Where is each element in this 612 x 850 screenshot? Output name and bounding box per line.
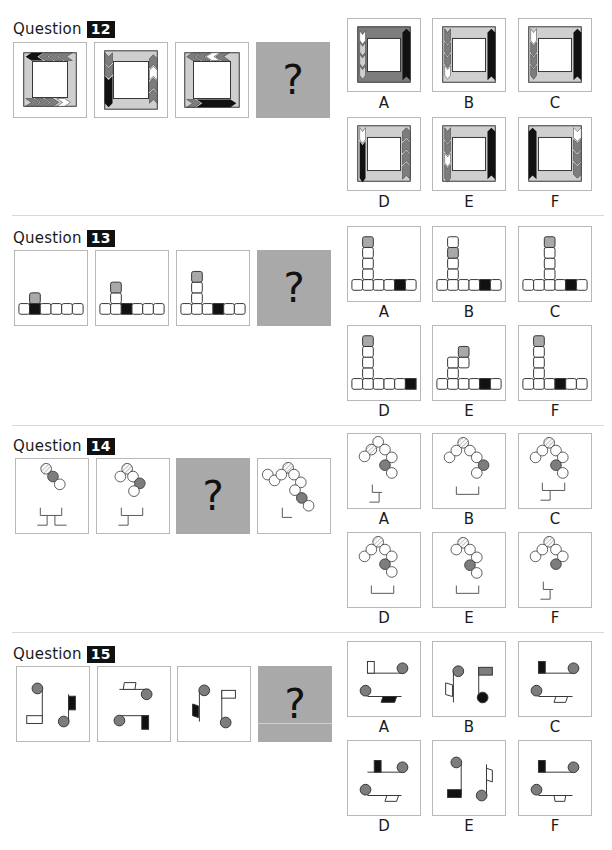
question-number-badge: 13 <box>87 230 115 247</box>
section-divider <box>12 632 604 633</box>
q14-option-e[interactable] <box>432 532 506 608</box>
section-divider <box>12 425 604 426</box>
q15-option-d[interactable] <box>347 740 421 816</box>
question-number-badge: 12 <box>87 21 115 38</box>
q12-option-d-label: D <box>347 193 421 211</box>
q13-option-e-label: E <box>432 402 506 420</box>
q14-option-d-label: D <box>347 609 421 627</box>
q12-sequence-figure-1 <box>13 42 87 118</box>
question-label: Question <box>13 229 82 247</box>
question-14-title: Question 14 <box>13 437 115 455</box>
q12-option-c-label: C <box>518 94 592 112</box>
q14-option-b-label: B <box>432 510 506 528</box>
question-label: Question <box>13 437 82 455</box>
q12-option-e[interactable] <box>432 117 506 191</box>
q14-option-c-label: C <box>518 510 592 528</box>
q14-option-e-label: E <box>432 609 506 627</box>
q14-missing-figure-placeholder: ? <box>176 458 250 534</box>
q14-sequence-figure-1 <box>15 458 89 534</box>
q13-sequence-figure-2 <box>95 250 169 326</box>
q13-option-c-label: C <box>518 303 592 321</box>
scan-artifact-line <box>258 723 332 724</box>
q14-sequence-figure-4 <box>257 458 331 534</box>
q13-option-c[interactable] <box>518 226 592 302</box>
q13-option-f[interactable] <box>518 325 592 401</box>
q13-option-e[interactable] <box>432 325 506 401</box>
q15-sequence-figure-3 <box>177 666 251 742</box>
q13-option-d[interactable] <box>347 325 421 401</box>
q14-option-b[interactable] <box>432 433 506 509</box>
q13-option-f-label: F <box>518 402 592 420</box>
q12-option-b[interactable] <box>432 18 506 92</box>
question-label: Question <box>13 20 82 38</box>
question-number-badge: 15 <box>87 646 115 663</box>
q12-option-d[interactable] <box>347 117 421 191</box>
q15-option-a-label: A <box>347 718 421 736</box>
q13-option-b[interactable] <box>432 226 506 302</box>
question-number-badge: 14 <box>87 438 115 455</box>
q15-sequence-figure-1 <box>16 666 90 742</box>
q15-option-f-label: F <box>518 817 592 835</box>
q15-option-c-label: C <box>518 718 592 736</box>
q12-option-a-label: A <box>347 94 421 112</box>
q14-option-d[interactable] <box>347 532 421 608</box>
q13-option-a-label: A <box>347 303 421 321</box>
q12-missing-figure-placeholder: ? <box>256 42 330 118</box>
q15-option-a[interactable] <box>347 641 421 717</box>
q15-option-e[interactable] <box>432 740 506 816</box>
q15-option-b[interactable] <box>432 641 506 717</box>
q13-missing-figure-placeholder: ? <box>257 250 331 326</box>
section-divider <box>12 215 604 216</box>
question-12-title: Question 12 <box>13 20 115 38</box>
q12-option-f[interactable] <box>518 117 592 191</box>
q15-sequence-figure-2 <box>97 666 171 742</box>
q12-option-c[interactable] <box>518 18 592 92</box>
q13-option-a[interactable] <box>347 226 421 302</box>
question-15-title: Question 15 <box>13 645 115 663</box>
q13-sequence-figure-3 <box>176 250 250 326</box>
q15-option-b-label: B <box>432 718 506 736</box>
question-13-title: Question 13 <box>13 229 115 247</box>
q12-option-a[interactable] <box>347 18 421 92</box>
q12-option-b-label: B <box>432 94 506 112</box>
q14-option-f-label: F <box>518 609 592 627</box>
q15-missing-figure-placeholder: ? <box>258 666 332 742</box>
q14-option-a-label: A <box>347 510 421 528</box>
q15-option-d-label: D <box>347 817 421 835</box>
q14-option-f[interactable] <box>518 532 592 608</box>
q13-option-b-label: B <box>432 303 506 321</box>
q15-option-c[interactable] <box>518 641 592 717</box>
question-label: Question <box>13 645 82 663</box>
q12-option-f-label: F <box>518 193 592 211</box>
q15-option-e-label: E <box>432 817 506 835</box>
q12-sequence-figure-3 <box>175 42 249 118</box>
q14-option-a[interactable] <box>347 433 421 509</box>
q12-sequence-figure-2 <box>94 42 168 118</box>
q13-option-d-label: D <box>347 402 421 420</box>
q13-sequence-figure-1 <box>14 250 88 326</box>
q12-option-e-label: E <box>432 193 506 211</box>
q14-option-c[interactable] <box>518 433 592 509</box>
q15-option-f[interactable] <box>518 740 592 816</box>
q14-sequence-figure-2 <box>96 458 170 534</box>
